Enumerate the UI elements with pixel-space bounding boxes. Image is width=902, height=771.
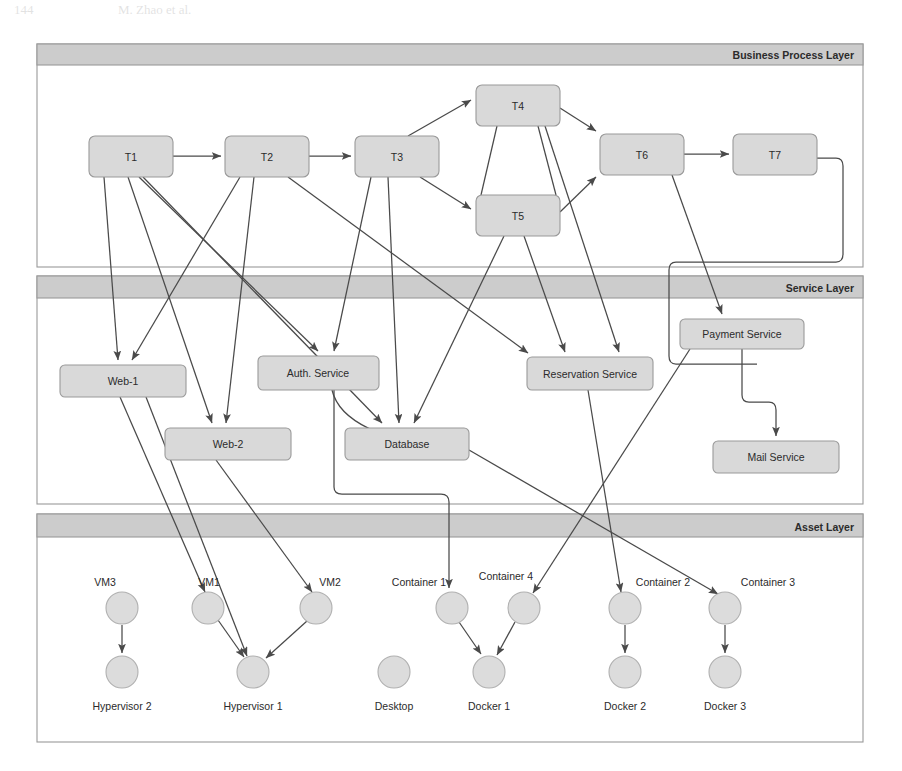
node-label: Mail Service bbox=[747, 451, 804, 463]
node-payment-service[interactable]: Payment Service bbox=[680, 319, 804, 349]
node-label: Hypervisor 2 bbox=[93, 700, 152, 712]
node-label: Container 4 bbox=[479, 570, 533, 582]
node-web-1[interactable]: Web-1 bbox=[60, 365, 186, 397]
node-T2[interactable]: T2 bbox=[225, 136, 309, 177]
layer-title-service: Service Layer bbox=[786, 282, 854, 294]
node-label: Web-2 bbox=[213, 438, 244, 450]
layer-title-asset: Asset Layer bbox=[794, 521, 854, 533]
node-label: Docker 1 bbox=[468, 700, 510, 712]
node-label: Payment Service bbox=[702, 328, 782, 340]
node-T7[interactable]: T7 bbox=[733, 134, 817, 175]
node-label: T1 bbox=[125, 151, 137, 163]
node-label: Container 1 bbox=[392, 576, 446, 588]
node-T3[interactable]: T3 bbox=[355, 136, 439, 177]
node-label: T2 bbox=[261, 151, 273, 163]
node-T1[interactable]: T1 bbox=[89, 136, 173, 177]
node-label: VM1 bbox=[198, 576, 220, 588]
node-label: Web-1 bbox=[108, 375, 139, 387]
node-label: Database bbox=[385, 438, 430, 450]
node-label: T6 bbox=[636, 149, 648, 161]
node-label: T7 bbox=[769, 149, 781, 161]
node-label: VM3 bbox=[94, 576, 116, 588]
node-T6[interactable]: T6 bbox=[600, 134, 684, 175]
node-label: Docker 2 bbox=[604, 700, 646, 712]
figure-canvas: Business Process Layer Service Layer Ass… bbox=[0, 0, 902, 771]
node-label: Container 2 bbox=[636, 576, 690, 588]
node-label: Hypervisor 1 bbox=[224, 700, 283, 712]
node-mail-service[interactable]: Mail Service bbox=[713, 441, 839, 473]
node-web-2[interactable]: Web-2 bbox=[165, 428, 291, 460]
node-label: T3 bbox=[391, 151, 403, 163]
node-label: Desktop bbox=[375, 700, 414, 712]
node-label: Reservation Service bbox=[543, 368, 637, 380]
node-auth-service[interactable]: Auth. Service bbox=[258, 356, 379, 390]
node-database[interactable]: Database bbox=[345, 428, 469, 460]
layer-title-business: Business Process Layer bbox=[733, 49, 854, 61]
node-T5[interactable]: T5 bbox=[476, 195, 560, 236]
node-label: T4 bbox=[512, 100, 524, 112]
node-label: Container 3 bbox=[741, 576, 795, 588]
node-T4[interactable]: T4 bbox=[476, 85, 560, 126]
dependency-diagram: Business Process Layer Service Layer Ass… bbox=[0, 0, 902, 771]
node-label: Docker 3 bbox=[704, 700, 746, 712]
node-label: T5 bbox=[512, 210, 524, 222]
node-label: VM2 bbox=[319, 576, 341, 588]
node-reservation-service[interactable]: Reservation Service bbox=[527, 357, 653, 390]
node-label: Auth. Service bbox=[287, 367, 350, 379]
